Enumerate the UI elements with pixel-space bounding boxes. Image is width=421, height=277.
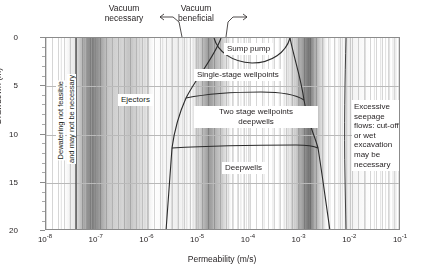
y-axis-title: Drawdown (m) — [0, 36, 3, 156]
x-tick-exponent: -6 — [148, 233, 153, 239]
x-tick-mantissa: 10 — [342, 235, 351, 244]
annotation-vacuum-necessary-line1: Vacuum — [88, 3, 160, 13]
zone-label-two-stage-line1: Two stage wellpoints — [197, 107, 315, 117]
x-tick-exponent: -5 — [199, 233, 204, 239]
y-tick-label-15: 15 — [0, 178, 18, 187]
x-tick-exponent: -3 — [300, 233, 305, 239]
x-tick-mantissa: 10 — [291, 235, 300, 244]
plot-inner: Dewatering not feasible and may not be n… — [46, 38, 399, 229]
zone-boundary-curves — [46, 38, 400, 230]
y-tick-mark-20 — [40, 230, 45, 231]
x-tick-exponent: -1 — [402, 233, 407, 239]
x-tick-label-1e-2: 10-2 — [329, 233, 369, 244]
zone-label-two-stage-line2: deepwells — [197, 117, 315, 127]
x-tick-label-1e-7: 10-7 — [76, 233, 116, 244]
x-tick-exponent: -2 — [351, 233, 356, 239]
zone-label-deepwells: Deepwells — [222, 162, 265, 174]
x-tick-label-1e-8: 10-8 — [25, 233, 65, 244]
y-tick-label-10: 10 — [0, 129, 18, 138]
annotation-vacuum-beneficial-line2: beneficial — [160, 13, 232, 23]
x-tick-mantissa: 10 — [89, 235, 98, 244]
dewatering-method-selection-chart: Vacuum necessary Vacuum beneficial Drawd… — [0, 0, 421, 277]
x-tick-mantissa: 10 — [393, 235, 402, 244]
plot-area: Dewatering not feasible and may not be n… — [45, 37, 400, 230]
x-tick-label-1e-6: 10-6 — [126, 233, 166, 244]
zone-label-sump-pump: Sump pump — [224, 43, 273, 55]
x-tick-mantissa: 10 — [38, 235, 47, 244]
y-tick-label-0: 0 — [0, 33, 18, 42]
x-tick-mantissa: 10 — [190, 235, 199, 244]
zone-label-two-stage-wellpoints: Two stage wellpoints deepwells — [194, 106, 318, 128]
annotation-vacuum-beneficial-line1: Vacuum — [160, 3, 232, 13]
annotation-vacuum-necessary: Vacuum necessary — [88, 3, 160, 23]
x-tick-label-1e-5: 10-5 — [177, 233, 217, 244]
zone-label-dewatering-line2: and may not be necessary — [67, 75, 76, 163]
zone-label-single-stage-wellpoints: Single-stage wellpoints — [194, 69, 282, 81]
x-tick-label-1e-3: 10-3 — [279, 233, 319, 244]
y-tick-label-20: 20 — [0, 226, 18, 235]
x-tick-exponent: -4 — [250, 233, 255, 239]
zone-label-ejectors: Ejectors — [118, 94, 153, 106]
annotation-vacuum-necessary-line2: necessary — [88, 13, 160, 23]
x-tick-label-1e-1: 10-1 — [380, 233, 420, 244]
x-tick-exponent: -7 — [97, 233, 102, 239]
x-tick-exponent: -8 — [47, 233, 52, 239]
x-axis-title: Permeability (m/s) — [188, 254, 256, 264]
x-tick-mantissa: 10 — [139, 235, 148, 244]
zone-label-dewatering-line1: Dewatering not feasible — [56, 81, 65, 159]
x-tick-mantissa: 10 — [241, 235, 250, 244]
zone-label-dewatering-not-feasible-2: and may not be necessary — [67, 74, 76, 164]
x-tick-label-1e-4: 10-4 — [228, 233, 268, 244]
annotation-vacuum-beneficial: Vacuum beneficial — [160, 3, 232, 23]
zone-label-excessive-seepage: Excessive seepage flows: cut-off or wet … — [352, 100, 400, 171]
y-tick-label-5: 5 — [0, 81, 18, 90]
zone-label-dewatering-not-feasible: Dewatering not feasible — [56, 80, 65, 160]
